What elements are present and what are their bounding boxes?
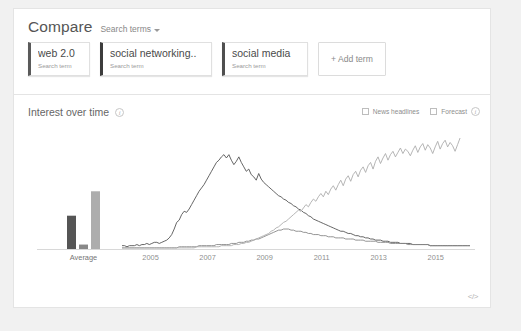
info-icon[interactable]: i [115, 108, 124, 117]
forecast-label: Forecast [441, 108, 467, 115]
term-card-subtitle: Search term [110, 61, 202, 70]
series-line-1 [122, 229, 470, 248]
term-card-social-media[interactable]: social media Search term [222, 42, 308, 76]
term-card-name: social media [232, 47, 298, 59]
checkbox-box[interactable] [430, 108, 437, 115]
chart-controls: News headlines Forecast i [362, 107, 480, 116]
interest-chart[interactable]: Average200520072009201120132015 [27, 126, 477, 298]
section-title: Interest over time [28, 106, 109, 118]
x-tick-label: 2013 [370, 253, 386, 262]
chevron-down-icon [154, 29, 160, 32]
interest-over-time-panel: Interest over time i News headlines Fore… [13, 94, 491, 308]
x-tick-label: 2005 [142, 253, 158, 262]
trends-page: Compare Search terms web 2.0 Search term… [0, 0, 521, 331]
compare-panel: Compare Search terms web 2.0 Search term… [13, 8, 491, 94]
term-card-social-networking[interactable]: social networking.. Search term [100, 42, 212, 76]
checkbox-box[interactable] [362, 108, 369, 115]
x-tick-label: 2007 [199, 253, 215, 262]
term-card-web-2-0[interactable]: web 2.0 Search term [28, 42, 90, 76]
series-line-0 [122, 155, 470, 247]
search-terms-dropdown-label: Search terms [100, 24, 151, 34]
term-card-subtitle: Search term [232, 61, 298, 70]
x-tick-label: 2015 [428, 253, 444, 262]
term-card-subtitle: Search term [38, 61, 80, 70]
term-card-name: social networking.. [110, 47, 202, 59]
page-title: Compare [28, 18, 92, 36]
compare-header: Compare Search terms [28, 18, 160, 36]
chart-svg: Average200520072009201120132015 [27, 126, 477, 298]
add-term-button[interactable]: + Add term [318, 42, 386, 76]
x-tick-label: 2009 [256, 253, 272, 262]
average-axis-label: Average [70, 253, 97, 262]
x-tick-label: 2011 [314, 253, 330, 262]
search-terms-dropdown[interactable]: Search terms [100, 24, 160, 34]
news-headlines-label: News headlines [373, 108, 420, 115]
news-headlines-checkbox[interactable]: News headlines [362, 108, 420, 115]
interest-over-time-header: Interest over time i [28, 106, 124, 118]
term-card-name: web 2.0 [38, 47, 80, 59]
average-bar-0 [67, 216, 76, 249]
forecast-info-icon[interactable]: i [471, 107, 480, 116]
average-bar-2 [91, 191, 100, 249]
search-term-cards: web 2.0 Search term social networking.. … [28, 42, 386, 76]
code-embed-icon[interactable]: </> [468, 292, 478, 301]
forecast-checkbox[interactable]: Forecast i [430, 107, 480, 116]
average-bar-1 [79, 245, 88, 249]
